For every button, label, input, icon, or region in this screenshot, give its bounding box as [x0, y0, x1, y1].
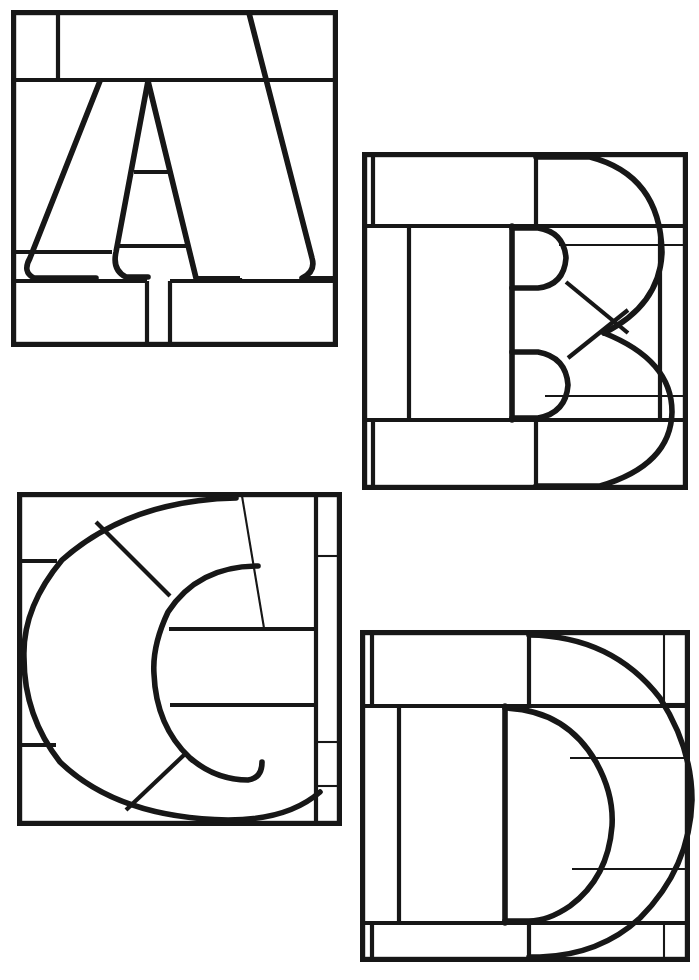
panel-b-lower-counter-arc [512, 352, 568, 418]
panel-c-upper-left-diagonal [96, 522, 170, 596]
panel-a-artwork [0, 0, 699, 980]
panel-c-inner-arc [154, 566, 262, 780]
panel-c-lower-left-diagonal [126, 755, 184, 810]
panel-c-outer-arc [24, 498, 320, 820]
panel-b-diagonal-brace-lower [568, 310, 628, 358]
panel-d-frame [363, 633, 688, 960]
panel-d-group [363, 633, 692, 960]
panel-a-group [14, 13, 336, 345]
panel-c-group [20, 495, 340, 824]
panel-b-upper-counter-arc [512, 228, 566, 288]
panel-d-inner-counter-arc [505, 708, 612, 921]
panel-c-frame [20, 495, 340, 824]
panel-b-frame [365, 155, 686, 488]
panel-a-letter-right-inner [148, 81, 196, 278]
panel-b-group [365, 155, 686, 488]
panel-c-top-right-slant [242, 496, 264, 628]
panel-b-diagonal-brace-upper [566, 282, 628, 333]
panel-a-letter-left-leg [27, 81, 100, 278]
coloring-page-sheet [0, 0, 699, 980]
panel-a-letter-right-leg [249, 13, 313, 278]
